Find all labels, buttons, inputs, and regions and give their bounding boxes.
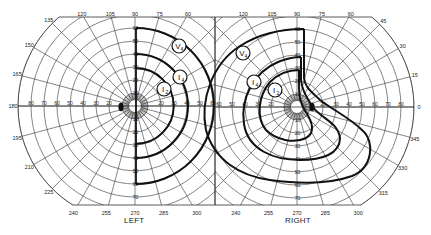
radial-label: 10 bbox=[295, 117, 301, 123]
radial-label: 20 bbox=[106, 100, 112, 106]
grid-meridian bbox=[141, 109, 248, 171]
angle-label: 240 bbox=[231, 210, 240, 216]
angle-label: 180 bbox=[8, 103, 17, 109]
angle-label: 225 bbox=[44, 189, 53, 195]
grid-meridian bbox=[43, 14, 130, 101]
angle-label: 60 bbox=[185, 11, 191, 17]
left-eye-label: LEFT bbox=[124, 216, 144, 225]
grid-meridian bbox=[302, 15, 389, 102]
perimetry-svg: 9010512013515016518019521022524025527028… bbox=[0, 0, 431, 235]
angle-label: 75 bbox=[319, 11, 325, 17]
grid-fine bbox=[141, 105, 147, 106]
radial-label: 60 bbox=[372, 101, 378, 107]
isopter-label-text: I bbox=[273, 86, 275, 95]
field-outline bbox=[215, 17, 414, 205]
grid-meridian bbox=[303, 42, 410, 104]
radial-label: 50 bbox=[295, 39, 301, 45]
radial-label: 70 bbox=[133, 194, 139, 200]
isopter-label-text: I bbox=[178, 73, 180, 82]
grid-fine bbox=[284, 108, 290, 109]
angle-label: 120 bbox=[77, 11, 86, 17]
angle-label: 75 bbox=[157, 11, 163, 17]
radial-label: 70 bbox=[295, 195, 301, 201]
grid-fine bbox=[141, 107, 147, 108]
angle-label: 240 bbox=[69, 210, 78, 216]
grid-meridian bbox=[302, 112, 389, 199]
radial-label: 30 bbox=[333, 101, 339, 107]
isopter-label-sub: 4 bbox=[182, 77, 185, 83]
grid-meridian bbox=[138, 112, 200, 219]
angle-label: 30 bbox=[400, 43, 406, 49]
angle-label: 105 bbox=[267, 11, 276, 17]
grid-fine bbox=[303, 106, 309, 107]
angle-label: 300 bbox=[354, 210, 363, 216]
angle-label: 195 bbox=[13, 135, 22, 141]
angle-label: 0 bbox=[417, 104, 420, 110]
radial-label: 20 bbox=[158, 100, 164, 106]
grid-meridian bbox=[184, 110, 291, 172]
grid-meridian bbox=[140, 111, 227, 198]
grid-meridian bbox=[22, 41, 129, 103]
angle-label: 285 bbox=[159, 210, 168, 216]
radial-label: 60 bbox=[216, 101, 222, 107]
grid-fine bbox=[284, 106, 290, 107]
angle-label: 300 bbox=[192, 210, 201, 216]
grid-meridian bbox=[43, 111, 130, 198]
angle-label: 285 bbox=[321, 210, 330, 216]
angle-label: 210 bbox=[25, 164, 34, 170]
angle-label: 120 bbox=[239, 11, 248, 17]
grid-meridian bbox=[141, 41, 248, 103]
isopter-label-text: I bbox=[162, 85, 164, 94]
isopter-label-sub: 4 bbox=[256, 82, 259, 88]
angle-label: 90 bbox=[132, 11, 138, 17]
grid-meridian bbox=[303, 110, 410, 172]
grid-meridian bbox=[303, 109, 422, 141]
radial-label: 70 bbox=[41, 100, 47, 106]
radial-label: 20 bbox=[295, 130, 301, 136]
radial-label: 50 bbox=[295, 169, 301, 175]
angle-label: 15 bbox=[412, 72, 418, 78]
grid-meridian bbox=[300, 113, 362, 220]
angle-label: 105 bbox=[106, 11, 115, 17]
angle-label: 255 bbox=[102, 210, 111, 216]
radial-label: 80 bbox=[398, 101, 404, 107]
radial-label: 80 bbox=[28, 100, 34, 106]
radial-label: 50 bbox=[67, 100, 73, 106]
right-eye-label: RIGHT bbox=[285, 216, 311, 225]
radial-label: 60 bbox=[54, 100, 60, 106]
radial-label: 30 bbox=[93, 100, 99, 106]
angle-label: 255 bbox=[264, 210, 273, 216]
radial-label: 70 bbox=[385, 101, 391, 107]
grid-meridian bbox=[22, 109, 129, 171]
isopter-label-sub: 2 bbox=[277, 90, 280, 96]
radial-label: 20 bbox=[268, 101, 274, 107]
grid-meridian bbox=[9, 108, 128, 140]
angle-label: 45 bbox=[380, 18, 386, 24]
angle-label: 315 bbox=[379, 190, 388, 196]
radial-label: 50 bbox=[359, 101, 365, 107]
angle-label: 165 bbox=[13, 71, 22, 77]
angle-label: 90 bbox=[294, 11, 300, 17]
isopter-label-text: I bbox=[252, 78, 254, 87]
isopter-label-sub: 4 bbox=[245, 53, 248, 59]
grid-meridian bbox=[232, 113, 294, 220]
isopter-label-sub: 4 bbox=[181, 46, 184, 52]
radial-label: 30 bbox=[295, 143, 301, 149]
grid-meridian bbox=[140, 14, 227, 101]
angle-label: 330 bbox=[398, 165, 407, 171]
blind-spot bbox=[118, 103, 123, 111]
isopter-label-sub: 2 bbox=[166, 89, 169, 95]
visual-field-chart: 9010512013515016518019521022524025527028… bbox=[0, 0, 431, 235]
angle-label: 150 bbox=[25, 42, 34, 48]
angle-label: 345 bbox=[410, 136, 419, 142]
grid-meridian bbox=[70, 112, 132, 219]
angle-label: 135 bbox=[44, 17, 53, 23]
radial-label: 40 bbox=[80, 100, 86, 106]
radial-label: 50 bbox=[197, 100, 203, 106]
angle-label: 60 bbox=[348, 11, 354, 17]
radial-label: 40 bbox=[346, 101, 352, 107]
radial-label: 50 bbox=[229, 101, 235, 107]
